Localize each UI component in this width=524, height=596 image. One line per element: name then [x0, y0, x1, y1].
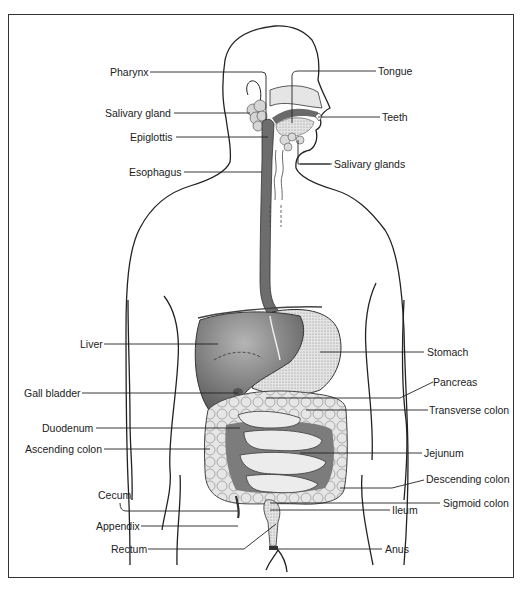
label-gall-bladder: Gall bladder — [24, 387, 81, 399]
label-epiglottis: Epiglottis — [130, 131, 173, 143]
salivary-glands-shape — [280, 133, 304, 151]
label-appendix: Appendix — [96, 520, 140, 532]
label-sigmoid-colon: Sigmoid colon — [443, 497, 509, 509]
label-pancreas: Pancreas — [433, 376, 477, 388]
label-tongue: Tongue — [378, 65, 412, 77]
label-teeth: Teeth — [382, 111, 408, 123]
label-duodenum: Duodenum — [42, 422, 93, 434]
label-cecum: Cecum — [98, 489, 131, 501]
label-stomach: Stomach — [427, 346, 468, 358]
anus-shape — [269, 546, 278, 550]
label-ileum: Ileum — [392, 504, 418, 516]
label-ascending-colon: Ascending colon — [25, 443, 102, 455]
label-anus: Anus — [385, 543, 409, 555]
label-salivary-gland: Salivary gland — [105, 107, 171, 119]
rectum-shape — [264, 500, 280, 546]
label-transverse-colon: Transverse colon — [429, 404, 509, 416]
label-salivary-glands: Salivary glands — [334, 158, 405, 170]
label-rectum: Rectum — [111, 543, 147, 555]
label-liver: Liver — [80, 338, 103, 350]
label-descending-colon: Descending colon — [426, 473, 509, 485]
label-pharynx: Pharynx — [110, 66, 149, 78]
nasal-cavity — [270, 86, 322, 108]
label-esophagus: Esophagus — [129, 166, 182, 178]
label-jejunum: Jejunum — [424, 447, 464, 459]
